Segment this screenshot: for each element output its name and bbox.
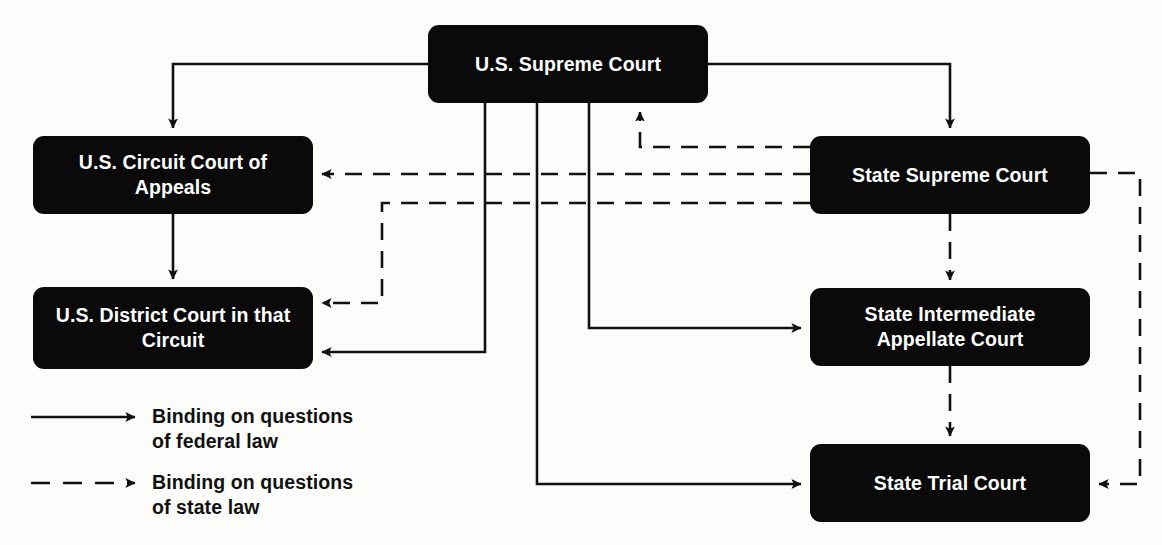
node-us-supreme-court[interactable]: U.S. Supreme Court [428, 25, 708, 103]
edge-scotus-to-state-intermediate [589, 103, 801, 328]
node-label: State Intermediate Appellate Court [818, 302, 1082, 352]
legend-label-federal: Binding on questions of federal law [152, 404, 353, 454]
node-label: U.S. Circuit Court of Appeals [41, 150, 305, 200]
edge-state-supreme-to-state-trial [1090, 173, 1140, 484]
edge-state-supreme-to-scotus [640, 112, 810, 147]
node-label: U.S. Supreme Court [475, 52, 661, 77]
edge-scotus-to-state-supreme [708, 64, 950, 128]
node-us-district-court[interactable]: U.S. District Court in that Circuit [33, 287, 313, 369]
node-us-circuit-court-of-appeals[interactable]: U.S. Circuit Court of Appeals [33, 136, 313, 214]
legend-label-state: Binding on questions of state law [152, 470, 353, 520]
node-state-intermediate-appellate-court[interactable]: State Intermediate Appellate Court [810, 288, 1090, 366]
edge-scotus-to-state-trial [537, 103, 801, 484]
node-state-supreme-court[interactable]: State Supreme Court [810, 136, 1090, 214]
edge-scotus-to-district [322, 103, 485, 352]
node-label: State Supreme Court [852, 163, 1048, 188]
node-label: U.S. District Court in that Circuit [41, 303, 305, 353]
edge-state-supreme-to-district [322, 203, 810, 303]
node-state-trial-court[interactable]: State Trial Court [810, 444, 1090, 522]
node-label: State Trial Court [874, 471, 1026, 496]
edge-scotus-to-circuit [173, 64, 428, 128]
court-hierarchy-diagram: U.S. Supreme Court U.S. Circuit Court of… [0, 0, 1162, 545]
